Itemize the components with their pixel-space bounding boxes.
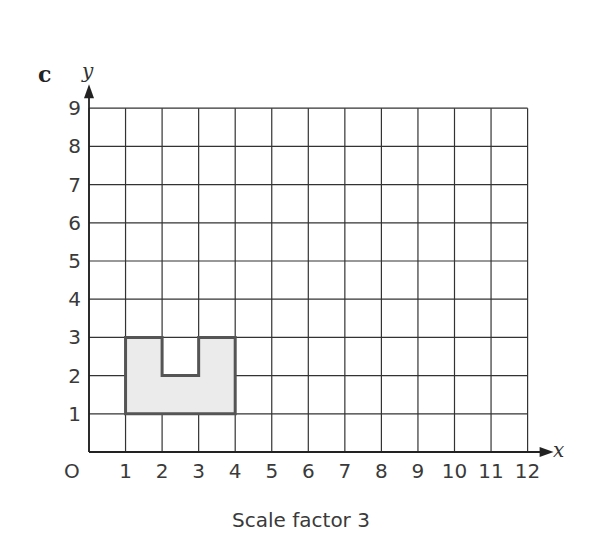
- u-shape: [126, 337, 236, 413]
- x-tick-label: 8: [375, 459, 388, 483]
- caption: Scale factor 3: [232, 508, 370, 532]
- x-tick-label: 1: [119, 459, 132, 483]
- x-tick-label: 10: [442, 459, 467, 483]
- y-tick-label: 5: [68, 249, 81, 273]
- x-tick-label: 7: [338, 459, 351, 483]
- x-axis-label: x: [553, 438, 564, 462]
- x-tick-label: 12: [515, 459, 540, 483]
- y-tick-label: 3: [68, 325, 81, 349]
- y-tick-label: 2: [68, 364, 81, 388]
- x-tick-label: 2: [156, 459, 169, 483]
- grid-diagram: 123456789101112 123456789 c y x O Scale …: [0, 0, 601, 548]
- y-tick-label: 7: [68, 173, 81, 197]
- y-axis-arrow-icon: [84, 84, 94, 98]
- part-label: c: [38, 61, 51, 87]
- x-tick-label: 6: [302, 459, 315, 483]
- origin-label: O: [64, 459, 80, 483]
- x-axis-arrow-icon: [540, 447, 554, 457]
- y-axis-label: y: [81, 59, 94, 83]
- x-tick-label: 5: [265, 459, 278, 483]
- y-tick-label: 8: [68, 134, 81, 158]
- x-tick-label: 9: [412, 459, 425, 483]
- y-tick-label: 9: [68, 96, 81, 120]
- y-tick-label: 4: [68, 287, 81, 311]
- x-tick-labels: 123456789101112: [119, 459, 540, 483]
- x-tick-label: 3: [192, 459, 205, 483]
- x-tick-label: 4: [229, 459, 242, 483]
- y-tick-label: 6: [68, 211, 81, 235]
- y-tick-labels: 123456789: [68, 96, 81, 426]
- y-tick-label: 1: [68, 402, 81, 426]
- x-tick-label: 11: [478, 459, 503, 483]
